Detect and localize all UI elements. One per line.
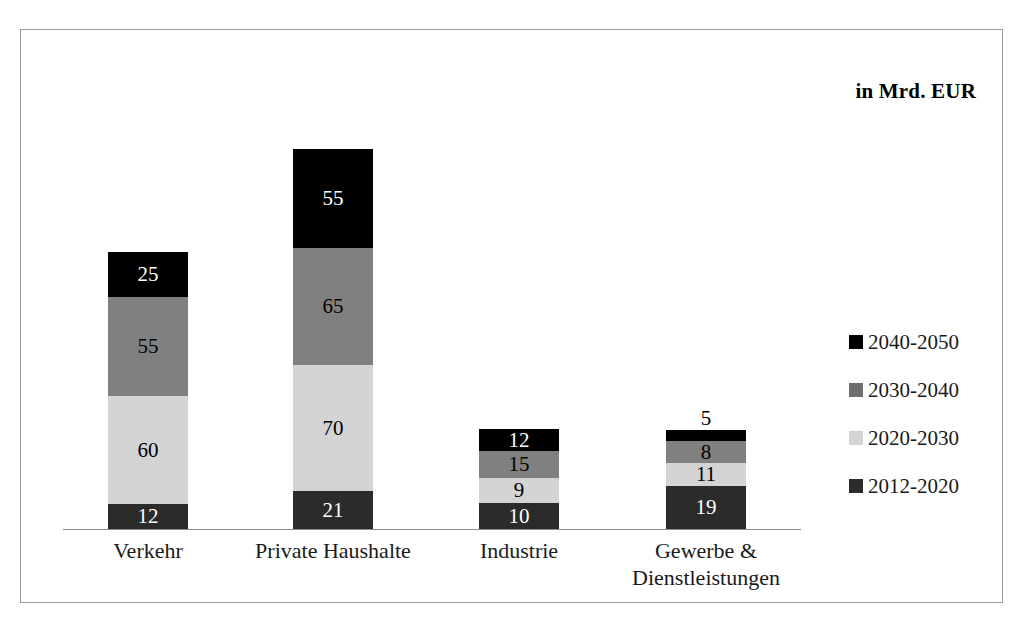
axis-label-gewerbe-line1: Gewerbe & <box>591 538 821 565</box>
legend-item-label: 2012-2020 <box>868 474 959 499</box>
bar-industrie[interactable]: 12 15 9 10 <box>479 429 559 529</box>
bar-segment-industrie-2030-2040[interactable]: 15 <box>479 451 559 478</box>
bar-value-label: 12 <box>509 430 530 451</box>
bar-value-label: 60 <box>138 440 159 461</box>
legend-item-label: 2040-2050 <box>868 330 959 355</box>
bar-segment-verkehr-2030-2040[interactable]: 55 <box>108 297 188 396</box>
bar-segment-verkehr-2040-2050[interactable]: 25 <box>108 252 188 297</box>
legend-item-2012-2020[interactable]: 2012-2020 <box>849 462 999 510</box>
legend-swatch-icon <box>849 383 863 397</box>
legend-item-2040-2050[interactable]: 2040-2050 <box>849 318 999 366</box>
bar-value-label: 19 <box>696 497 717 518</box>
bar-value-label: 21 <box>323 500 344 521</box>
units-caption: in Mrd. EUR <box>855 79 976 104</box>
bar-segment-gewerbe-2030-2040[interactable]: 8 <box>666 441 746 463</box>
bar-value-label: 70 <box>323 418 344 439</box>
legend-item-2020-2030[interactable]: 2020-2030 <box>849 414 999 462</box>
chart-frame: 25 55 60 12 55 65 70 21 <box>20 29 1003 603</box>
bar-segment-private-haushalte-2040-2050[interactable]: 55 <box>293 149 373 248</box>
bar-value-label: 12 <box>138 506 159 527</box>
bar-segment-private-haushalte-2020-2030[interactable]: 70 <box>293 365 373 491</box>
legend-swatch-icon <box>849 479 863 493</box>
bar-value-label: 8 <box>701 442 712 463</box>
bar-value-label: 15 <box>509 454 530 475</box>
legend-swatch-icon <box>849 335 863 349</box>
bar-value-label: 9 <box>514 480 525 501</box>
bar-segment-industrie-2040-2050[interactable]: 12 <box>479 429 559 451</box>
plot-area: 25 55 60 12 55 65 70 21 <box>21 30 1004 604</box>
axis-label-gewerbe-line2: Dienstleistungen <box>591 565 821 592</box>
bar-value-label: 5 <box>666 408 746 429</box>
chart-legend: 2040-2050 2030-2040 2020-2030 2012-2020 <box>849 318 999 510</box>
bar-value-label: 10 <box>509 506 530 527</box>
bar-segment-gewerbe-2020-2030[interactable]: 11 <box>666 463 746 486</box>
legend-item-label: 2020-2030 <box>868 426 959 451</box>
bar-private-haushalte[interactable]: 55 65 70 21 <box>293 149 373 529</box>
bar-value-label: 55 <box>323 188 344 209</box>
axis-label-gewerbe-dienstleistungen: Gewerbe & Dienstleistungen <box>591 538 821 592</box>
bar-segment-verkehr-2012-2020[interactable]: 12 <box>108 504 188 529</box>
bar-value-label: 65 <box>323 296 344 317</box>
bar-segment-private-haushalte-2030-2040[interactable]: 65 <box>293 248 373 365</box>
bar-segment-gewerbe-2012-2020[interactable]: 19 <box>666 486 746 529</box>
bar-value-label: 25 <box>138 264 159 285</box>
bar-value-label: 55 <box>138 336 159 357</box>
bar-segment-verkehr-2020-2030[interactable]: 60 <box>108 396 188 504</box>
legend-swatch-icon <box>849 431 863 445</box>
bar-verkehr[interactable]: 25 55 60 12 <box>108 252 188 529</box>
legend-item-label: 2030-2040 <box>868 378 959 403</box>
bar-segment-industrie-2012-2020[interactable]: 10 <box>479 503 559 529</box>
bar-value-label: 11 <box>696 464 716 485</box>
bar-segment-industrie-2020-2030[interactable]: 9 <box>479 478 559 503</box>
bar-segment-private-haushalte-2012-2020[interactable]: 21 <box>293 491 373 529</box>
category-axis-line <box>63 529 801 530</box>
legend-item-2030-2040[interactable]: 2030-2040 <box>849 366 999 414</box>
bar-gewerbe-dienstleistungen[interactable]: 5 8 11 19 <box>666 430 746 529</box>
